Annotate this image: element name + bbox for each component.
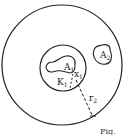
label-a2: A2 bbox=[99, 50, 111, 61]
label-r2: r2 bbox=[89, 93, 97, 104]
label-k1: K1 bbox=[57, 77, 68, 88]
dashed-k1 bbox=[70, 74, 73, 88]
label-a1: A1 bbox=[63, 62, 74, 73]
diagram: A1 A2 K1 x1 r2 Fig. bbox=[0, 0, 123, 135]
label-x: x1 bbox=[74, 69, 83, 80]
caption: Fig. bbox=[100, 127, 116, 135]
outer-circle bbox=[2, 5, 122, 125]
